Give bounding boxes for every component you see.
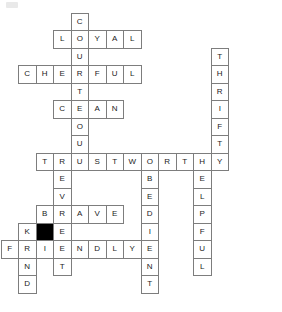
crossword-cell[interactable]: O xyxy=(141,153,160,172)
crossword-cell[interactable]: V xyxy=(88,205,107,224)
crossword-cell[interactable]: E xyxy=(106,205,125,224)
crossword-cell[interactable]: A xyxy=(71,205,90,224)
crossword-cell[interactable]: R xyxy=(211,83,230,102)
crossword-grid: CLOYALUTCHERFULHTRCEANIOFUTTRUSTWORTHYEB… xyxy=(0,0,282,312)
crossword-cell[interactable]: Y xyxy=(123,240,142,259)
crossword-cell[interactable]: U xyxy=(106,65,125,84)
crossword-cell[interactable]: L xyxy=(193,258,212,277)
corner-artifact xyxy=(6,2,18,8)
crossword-cell[interactable]: R xyxy=(53,205,72,224)
crossword-cell[interactable]: A xyxy=(88,100,107,119)
crossword-cell[interactable]: U xyxy=(71,153,90,172)
crossword-cell[interactable]: F xyxy=(1,240,20,259)
crossword-cell[interactable]: U xyxy=(71,48,90,67)
crossword-cell[interactable]: N xyxy=(71,240,90,259)
crossword-cell[interactable]: E xyxy=(53,170,72,189)
crossword-cell[interactable]: T xyxy=(211,135,230,154)
crossword-cell[interactable]: P xyxy=(193,205,212,224)
crossword-cell[interactable]: V xyxy=(53,188,72,207)
crossword-cell[interactable]: E xyxy=(53,223,72,242)
crossword-cell[interactable]: L xyxy=(53,30,72,49)
crossword-cell[interactable]: F xyxy=(193,223,212,242)
crossword-cell[interactable]: T xyxy=(53,258,72,277)
crossword-blocked-cell xyxy=(36,223,55,242)
crossword-cell[interactable]: A xyxy=(106,30,125,49)
crossword-cell[interactable]: H xyxy=(36,65,55,84)
crossword-cell[interactable]: E xyxy=(193,170,212,189)
crossword-cell[interactable]: E xyxy=(71,100,90,119)
crossword-cell[interactable]: O xyxy=(71,118,90,137)
crossword-cell[interactable]: R xyxy=(158,153,177,172)
crossword-cell[interactable]: N xyxy=(18,258,37,277)
crossword-cell[interactable]: T xyxy=(71,83,90,102)
crossword-cell[interactable]: E xyxy=(53,65,72,84)
crossword-cell[interactable]: H xyxy=(211,65,230,84)
crossword-cell[interactable]: C xyxy=(18,65,37,84)
crossword-cell[interactable]: E xyxy=(53,240,72,259)
crossword-cell[interactable]: E xyxy=(141,188,160,207)
crossword-cell[interactable]: D xyxy=(141,205,160,224)
crossword-cell[interactable]: U xyxy=(71,135,90,154)
crossword-cell[interactable]: I xyxy=(141,223,160,242)
crossword-cell[interactable]: R xyxy=(71,65,90,84)
crossword-cell[interactable]: R xyxy=(18,240,37,259)
crossword-cell[interactable]: C xyxy=(53,100,72,119)
crossword-cell[interactable]: T xyxy=(176,153,195,172)
crossword-cell[interactable]: T xyxy=(36,153,55,172)
crossword-cell[interactable]: U xyxy=(193,240,212,259)
crossword-cell[interactable]: T xyxy=(141,275,160,294)
crossword-cell[interactable]: F xyxy=(88,65,107,84)
crossword-cell[interactable]: R xyxy=(53,153,72,172)
crossword-cell[interactable]: Y xyxy=(211,153,230,172)
crossword-cell[interactable]: L xyxy=(123,30,142,49)
crossword-cell[interactable]: B xyxy=(141,170,160,189)
crossword-cell[interactable]: B xyxy=(36,205,55,224)
crossword-cell[interactable]: L xyxy=(193,188,212,207)
crossword-cell[interactable]: L xyxy=(123,65,142,84)
crossword-cell[interactable]: N xyxy=(141,258,160,277)
crossword-cell[interactable]: W xyxy=(123,153,142,172)
crossword-cell[interactable]: T xyxy=(106,153,125,172)
crossword-cell[interactable]: L xyxy=(106,240,125,259)
crossword-cell[interactable]: O xyxy=(71,30,90,49)
crossword-cell[interactable]: E xyxy=(141,240,160,259)
crossword-cell[interactable]: N xyxy=(106,100,125,119)
crossword-cell[interactable]: S xyxy=(88,153,107,172)
crossword-cell[interactable]: T xyxy=(211,48,230,67)
crossword-cell[interactable]: I xyxy=(211,100,230,119)
crossword-cell[interactable]: I xyxy=(36,240,55,259)
crossword-cell[interactable]: K xyxy=(18,223,37,242)
crossword-cell[interactable]: D xyxy=(88,240,107,259)
crossword-cell[interactable]: Y xyxy=(88,30,107,49)
crossword-cell[interactable]: H xyxy=(193,153,212,172)
crossword-cell[interactable]: F xyxy=(211,118,230,137)
crossword-cell[interactable]: C xyxy=(71,13,90,32)
crossword-cell[interactable]: D xyxy=(18,275,37,294)
